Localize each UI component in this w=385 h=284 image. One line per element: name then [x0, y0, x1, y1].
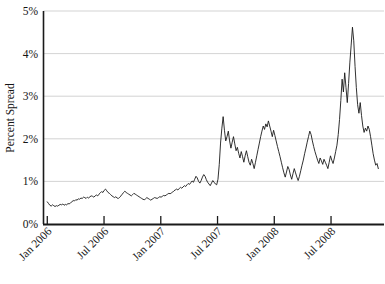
y-axis-tick-labels: 0%1%2%3%4%5% [23, 5, 39, 230]
x-tick-label: Jan 2007 [130, 225, 168, 263]
series-line-percent-spread [47, 27, 378, 206]
x-axis-ticks [47, 216, 331, 224]
y-tick-label: 5% [23, 5, 39, 17]
x-tick-label: Jul 2006 [74, 225, 110, 261]
y-tick-label: 3% [23, 90, 39, 102]
y-axis-title: Percent Spread [4, 83, 17, 153]
plot-area [47, 27, 378, 206]
y-tick-label: 1% [23, 175, 39, 187]
x-tick-label: Jan 2006 [16, 225, 54, 263]
percent-spread-chart: 0%1%2%3%4%5% Jan 2006Jul 2006Jan 2007Jul… [0, 0, 385, 284]
x-axis-tick-labels: Jan 2006Jul 2006Jan 2007Jul 2007Jan 2008… [16, 225, 338, 263]
axes [43, 11, 384, 225]
y-tick-label: 0% [23, 218, 39, 230]
x-tick-label: Jul 2007 [188, 225, 224, 261]
gridlines [44, 11, 385, 181]
y-tick-label: 2% [23, 133, 39, 145]
chart-canvas: 0%1%2%3%4%5% Jan 2006Jul 2006Jan 2007Jul… [0, 0, 385, 284]
x-tick-label: Jan 2008 [243, 225, 281, 263]
x-tick-label: Jul 2008 [301, 225, 337, 261]
y-tick-label: 4% [23, 48, 39, 60]
